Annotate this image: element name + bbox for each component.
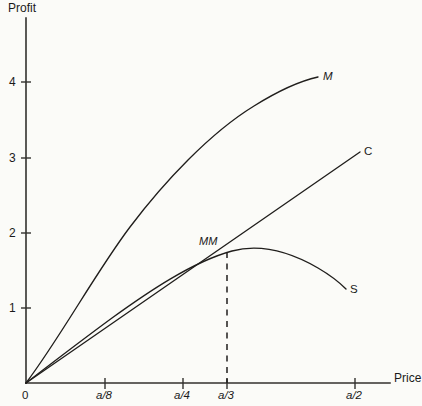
curve-c: [26, 152, 360, 383]
y-axis-title: Profit: [8, 2, 36, 14]
y-tick-label-3: 3: [9, 152, 16, 164]
x-tick-label-origin: 0: [22, 390, 28, 402]
curve-label-s: S: [350, 284, 358, 296]
curve-s: [26, 248, 346, 383]
y-tick-label-4: 4: [9, 76, 16, 88]
chart-canvas: [0, 0, 422, 406]
curve-label-c: C: [364, 146, 372, 158]
x-tick-label-a8: a/8: [96, 390, 112, 402]
curve-m: [26, 77, 318, 383]
x-tick-label-a4: a/4: [174, 390, 190, 402]
x-axis-title: Price: [394, 372, 421, 384]
y-tick-label-1: 1: [9, 302, 16, 314]
x-tick-label-a3: a/3: [218, 390, 234, 402]
curve-label-m: M: [323, 71, 333, 83]
x-tick-label-a2: a/2: [346, 390, 362, 402]
annotation-mm: MM: [199, 236, 217, 247]
profit-price-chart: Profit Price 4 3 2 1 0 a/8 a/4 a/3 a/2 M…: [0, 0, 422, 406]
y-tick-label-2: 2: [9, 227, 16, 239]
